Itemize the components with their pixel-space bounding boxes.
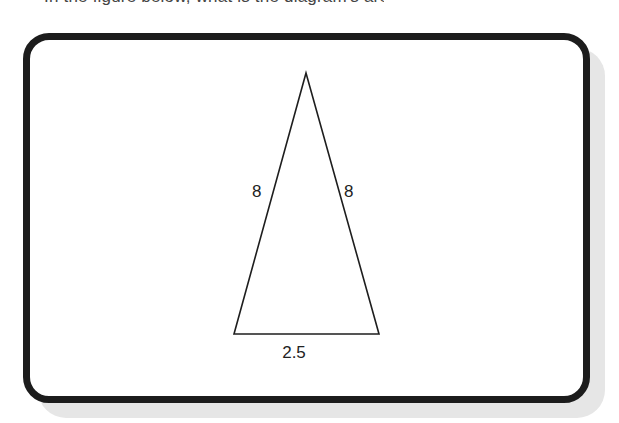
triangle-shape xyxy=(234,73,379,334)
right-side-label: 8 xyxy=(344,182,353,201)
base-label: 2.5 xyxy=(282,343,306,362)
triangle-diagram: 8 8 2.5 xyxy=(0,0,619,423)
left-side-label: 8 xyxy=(252,182,261,201)
